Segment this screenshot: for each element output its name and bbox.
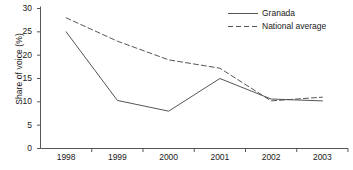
legend-item[interactable]: Granada xyxy=(228,8,353,19)
legend-line-swatch-icon xyxy=(228,10,258,17)
y-axis-ticks xyxy=(37,9,41,149)
legend-label: Granada xyxy=(258,9,295,18)
legend-label: National average xyxy=(258,22,326,31)
x-axis-ticks xyxy=(92,149,348,153)
legend-line-swatch-icon xyxy=(228,23,258,30)
series-line xyxy=(66,32,322,111)
legend-item[interactable]: National average xyxy=(228,21,353,32)
chart-legend: GranadaNational average xyxy=(228,8,353,34)
line-chart: Share of voice (%) 051015202530 19981999… xyxy=(0,0,353,170)
